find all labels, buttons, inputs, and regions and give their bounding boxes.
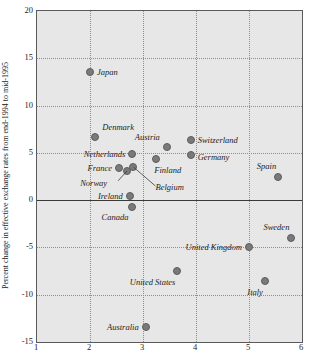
- point-label: Germany: [198, 153, 230, 162]
- data-point-marker: [261, 277, 269, 285]
- zero-reference-line: [37, 200, 302, 201]
- data-point-marker: [173, 267, 181, 275]
- gridline-vertical: [196, 11, 197, 342]
- point-label: Netherlands: [84, 149, 126, 158]
- plot-area: JapanDenmarkNetherlandsFranceNorwayBelgi…: [36, 10, 303, 343]
- point-label: Norway: [80, 178, 107, 187]
- point-label: Finland: [154, 166, 181, 175]
- data-point-marker: [152, 155, 160, 163]
- data-point-marker: [245, 243, 253, 251]
- gridline-vertical: [143, 11, 144, 342]
- data-point-marker: [274, 173, 282, 181]
- data-point-marker: [128, 203, 136, 211]
- point-label: Ireland: [98, 192, 123, 201]
- gridline-horizontal: [37, 247, 302, 248]
- scatter-chart-figure: JapanDenmarkNetherlandsFranceNorwayBelgi…: [0, 0, 310, 354]
- point-label: Canada: [101, 212, 128, 221]
- point-label: Austria: [135, 133, 160, 142]
- data-point-marker: [86, 68, 94, 76]
- gridline-horizontal: [37, 58, 302, 59]
- gridline-horizontal: [37, 106, 302, 107]
- gridline-horizontal: [37, 153, 302, 154]
- data-point-marker: [142, 323, 150, 331]
- point-label: Spain: [257, 162, 276, 171]
- point-label: Australia: [107, 322, 139, 331]
- point-label: Sweden: [263, 222, 289, 231]
- point-label: Denmark: [102, 122, 134, 131]
- data-point-marker: [187, 136, 195, 144]
- point-label: United Kingdom: [186, 243, 242, 252]
- data-point-marker: [128, 150, 136, 158]
- point-label: Switzerland: [198, 135, 238, 144]
- y-axis-title: Percent change in effective exchange rat…: [0, 10, 12, 341]
- data-point-marker: [163, 143, 171, 151]
- point-label: France: [88, 164, 113, 173]
- point-label: Japan: [97, 67, 118, 76]
- point-label: United States: [130, 278, 176, 287]
- data-point-marker: [91, 133, 99, 141]
- data-point-marker: [129, 163, 137, 171]
- point-label: Belgium: [155, 183, 183, 192]
- data-point-marker: [187, 151, 195, 159]
- data-point-marker: [115, 164, 123, 172]
- leader-line-belgium: [133, 167, 155, 186]
- data-point-marker: [287, 234, 295, 242]
- point-label: Italy: [247, 287, 263, 296]
